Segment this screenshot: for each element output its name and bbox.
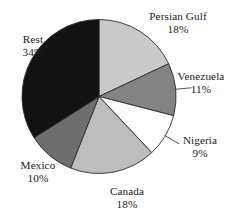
pie-label-venezuela: Venezuela 11% <box>166 70 236 95</box>
pie-label-name: Mexico <box>7 159 69 172</box>
pie-label-mexico: Mexico 10% <box>7 159 69 184</box>
pie-label-name: Persian Gulf <box>130 10 226 23</box>
pie-label-name: Venezuela <box>166 70 236 83</box>
pie-label-persian-gulf: Persian Gulf 18% <box>130 10 226 35</box>
pie-label-value: 18% <box>94 198 160 211</box>
pie-label-value: 11% <box>166 83 236 96</box>
pie-chart: Persian Gulf 18% Venezuela 11% Nigeria 9… <box>0 0 237 216</box>
pie-label-canada: Canada 18% <box>94 185 160 210</box>
pie-label-value: 18% <box>130 23 226 36</box>
pie-label-value: 9% <box>168 147 232 160</box>
pie-label-name: Nigeria <box>168 134 232 147</box>
pie-label-nigeria: Nigeria 9% <box>168 134 232 159</box>
pie-label-value: 34% <box>8 46 58 59</box>
pie-label-name: Canada <box>94 185 160 198</box>
pie-label-name: Rest <box>8 33 58 46</box>
pie-label-rest: Rest 34% <box>8 33 58 58</box>
pie-label-value: 10% <box>7 172 69 185</box>
